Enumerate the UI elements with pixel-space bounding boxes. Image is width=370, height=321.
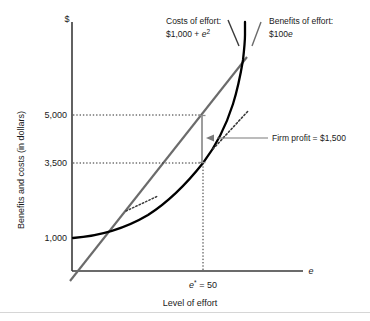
y-tick-label-1000: 1,000 <box>44 233 67 243</box>
y-tick-label-3500: 3,500 <box>44 158 67 168</box>
costs-annotation-line1: Costs of effort: <box>166 16 221 26</box>
x-axis-title: Level of effort <box>163 298 218 308</box>
tangent-segment-optimum <box>213 110 249 149</box>
x-tick-label-estar: e* = 50 <box>189 279 217 290</box>
y-tick-label-5000: 5,000 <box>44 110 67 120</box>
bottom-divider <box>0 312 370 313</box>
benefits-line <box>70 57 247 281</box>
costs-annotation-line2: $1,000 + e2 <box>166 28 210 40</box>
y-axis-currency-symbol: $ <box>64 14 69 24</box>
figure-canvas: $ 5,000 3,500 1,000 Benefits and costs (… <box>0 0 370 321</box>
benefits-annotation-line2: $100e <box>269 29 293 39</box>
benefits-label-pointer <box>252 22 261 46</box>
costs-label-pointer <box>228 20 239 46</box>
profit-arrow-head <box>206 135 214 142</box>
y-axis-title: Benefits and costs (in dollars) <box>16 111 26 229</box>
profit-annotation-label: Firm profit = $1,500 <box>272 133 346 143</box>
x-axis-variable-symbol: e <box>308 266 313 276</box>
costs-curve <box>73 22 245 238</box>
benefits-annotation-line1: Benefits of effort: <box>269 16 333 26</box>
